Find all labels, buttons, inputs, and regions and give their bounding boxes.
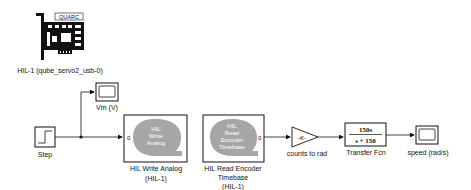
branch-point <box>79 135 82 138</box>
svg-text:Timebase: Timebase <box>219 144 246 150</box>
gain-label: counts to rad <box>287 150 327 158</box>
vm-scope-block[interactable] <box>96 83 118 101</box>
hil-read-encoder-label-2: Timebase <box>218 174 248 182</box>
svg-text:HIL: HIL <box>227 123 237 129</box>
hil-card-icon[interactable]: QUARC <box>36 13 84 60</box>
hil-write-analog-sublabel: (HIL-1) <box>145 175 167 183</box>
hil-read-encoder-label: HIL Read Encoder <box>204 165 261 173</box>
speed-scope-label: speed (rad/s) <box>407 149 448 157</box>
hil-initialize-label: HIL-1 (qube_servo2_usb-0) <box>17 67 103 75</box>
gain-block[interactable]: -K- <box>292 127 318 147</box>
svg-text:s + 150: s + 150 <box>355 137 376 145</box>
svg-text:Read: Read <box>225 130 239 136</box>
svg-text:Analog: Analog <box>147 140 166 146</box>
transfer-fcn-label: Transfer Fcn <box>346 149 385 157</box>
svg-text:Encoder: Encoder <box>221 137 243 143</box>
vm-scope-label: Vm (V) <box>96 104 118 112</box>
speed-scope-block[interactable] <box>416 126 438 144</box>
diagram-canvas: QUARC HIL Write Analog 0 HIL Re <box>0 0 471 190</box>
transfer-fcn-block[interactable]: 150s s + 150 <box>345 123 386 146</box>
hil-write-analog-block[interactable]: HIL Write Analog 0 <box>124 115 187 162</box>
hil-read-encoder-sublabel: (HIL-1) <box>222 183 244 190</box>
svg-text:HIL: HIL <box>151 126 161 132</box>
step-label: Step <box>38 151 52 159</box>
svg-text:150s: 150s <box>359 126 373 134</box>
hil-write-analog-label: HIL Write Analog <box>130 165 182 173</box>
step-block[interactable] <box>35 127 55 147</box>
svg-text:Write: Write <box>149 133 164 139</box>
svg-text:QUARC: QUARC <box>59 14 79 20</box>
svg-text:-K-: -K- <box>298 135 306 141</box>
hil-read-encoder-block[interactable]: HIL Read Encoder Timebase 0 <box>203 115 264 162</box>
